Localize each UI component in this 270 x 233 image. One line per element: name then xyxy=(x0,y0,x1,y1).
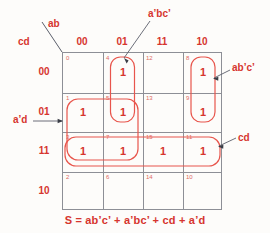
cell-minterm-index: 8 xyxy=(186,54,189,62)
cell-value: 1 xyxy=(143,145,183,158)
cell-value: 1 xyxy=(103,145,143,158)
kmap-cell[interactable]: 1 1 xyxy=(63,93,103,133)
group-label-cd: cd xyxy=(238,132,250,143)
kmap-cell[interactable]: 14 xyxy=(143,172,183,212)
cell-value: 1 xyxy=(183,145,223,158)
column-header-1: 01 xyxy=(102,36,142,47)
kmap-cell[interactable]: 8 1 xyxy=(183,53,223,93)
kmap-cell[interactable]: 4 1 xyxy=(103,53,143,93)
kmap-cell[interactable]: 10 xyxy=(183,172,223,212)
result-equation: S = ab’c’ + a’bc’ + cd + a’d xyxy=(0,214,270,226)
cell-minterm-index: 5 xyxy=(106,94,109,102)
row-header-1: 01 xyxy=(30,106,58,117)
column-header-2: 11 xyxy=(142,36,182,47)
karnaugh-map-figure: ab cd 00 01 11 10 00 01 11 10 0 4 1 12 8… xyxy=(0,0,270,233)
kmap-cell[interactable]: 11 1 xyxy=(183,132,223,172)
kmap-cell[interactable]: 9 1 xyxy=(183,93,223,133)
column-variable-label: ab xyxy=(48,18,60,29)
cell-minterm-index: 11 xyxy=(186,133,192,141)
column-header-3: 10 xyxy=(182,36,222,47)
kmap-cell[interactable]: 12 xyxy=(143,53,183,93)
kmap-cell[interactable]: 0 xyxy=(63,53,103,93)
cell-minterm-index: 4 xyxy=(106,54,109,62)
cell-value: 1 xyxy=(63,145,103,158)
row-header-3: 10 xyxy=(30,185,58,196)
group-label-a-prime-b-c-prime: a’bc’ xyxy=(148,8,171,19)
cell-minterm-index: 10 xyxy=(186,173,193,181)
row-variable-label: cd xyxy=(18,36,30,47)
kmap-cell[interactable]: 15 1 xyxy=(143,132,183,172)
cell-minterm-index: 0 xyxy=(66,54,69,62)
cell-minterm-index: 1 xyxy=(66,94,69,102)
cell-minterm-index: 15 xyxy=(146,133,153,141)
kmap-cell[interactable]: 5 1 xyxy=(103,93,143,133)
cell-minterm-index: 3 xyxy=(66,133,69,141)
cell-minterm-index: 13 xyxy=(146,94,153,102)
kmap-cell[interactable]: 13 xyxy=(143,93,183,133)
cell-minterm-index: 6 xyxy=(106,173,109,181)
cell-minterm-index: 2 xyxy=(66,173,69,181)
cell-value: 1 xyxy=(103,106,143,119)
cell-value: 1 xyxy=(63,106,103,119)
cell-minterm-index: 14 xyxy=(146,173,153,181)
cell-minterm-index: 9 xyxy=(186,94,189,102)
group-label-a-b-prime-c-prime: ab’c’ xyxy=(232,62,255,73)
kmap-cell[interactable]: 2 xyxy=(63,172,103,212)
row-header-2: 11 xyxy=(30,145,58,156)
cell-minterm-index: 12 xyxy=(146,54,153,62)
cell-value: 1 xyxy=(183,106,223,119)
row-header-0: 00 xyxy=(30,66,58,77)
kmap-cell[interactable]: 7 1 xyxy=(103,132,143,172)
kmap-grid: 0 4 1 12 8 1 1 1 5 1 13 9 1 xyxy=(62,52,222,210)
kmap-cell[interactable]: 3 1 xyxy=(63,132,103,172)
kmap-cell[interactable]: 6 xyxy=(103,172,143,212)
group-label-a-prime-d: a’d xyxy=(13,114,27,125)
cell-value: 1 xyxy=(103,66,143,79)
cell-minterm-index: 7 xyxy=(106,133,109,141)
column-header-0: 00 xyxy=(62,36,102,47)
cell-value: 1 xyxy=(183,66,223,79)
